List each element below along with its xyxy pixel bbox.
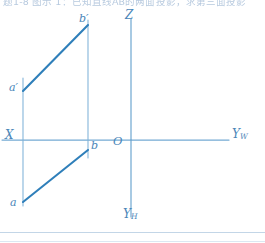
- origin-label-text: O: [113, 134, 122, 148]
- point-label-a: a: [10, 197, 17, 208]
- origin-label: O: [113, 136, 122, 148]
- line-ab-projections: [23, 25, 88, 202]
- axis-label-z-text: Z: [125, 8, 133, 22]
- point-label-b-text: b: [91, 139, 98, 152]
- point-label-b: b: [91, 140, 98, 151]
- axis-label-yw-subscript: W: [240, 132, 248, 141]
- projector-lines: [23, 20, 88, 206]
- point-label-a-prime: a′: [9, 82, 18, 93]
- page-rule-primary: [0, 232, 265, 233]
- point-label-b-prime-mark: ′: [86, 12, 89, 25]
- projection-figure: [0, 0, 265, 243]
- page-rule-secondary: [0, 241, 265, 242]
- drawing-canvas: X Z YW YH O a′ b′ a b: [0, 0, 265, 243]
- axis-label-yh-text: Y: [123, 207, 131, 221]
- projection-drawing-screenshot: 题1-8 图示 1：已知直线AB的两面投影，求第三面投影: [0, 0, 265, 243]
- point-label-b-prime-text: b: [79, 12, 86, 25]
- axis-label-yw-text: Y: [232, 127, 240, 141]
- segment-frontal-projection-ab: [23, 25, 88, 91]
- axis-label-yh-subscript: H: [131, 212, 138, 221]
- axis-label-x: X: [5, 129, 14, 141]
- point-label-a-text: a: [10, 196, 17, 209]
- axis-label-yw: YW: [232, 128, 248, 141]
- axis-label-x-text: X: [5, 128, 14, 142]
- axis-label-z: Z: [125, 9, 133, 21]
- point-label-a-prime-mark: ′: [16, 81, 19, 94]
- axis-label-yh: YH: [123, 208, 137, 221]
- segment-horizontal-projection-ab: [23, 150, 88, 202]
- point-label-b-prime: b′: [79, 13, 89, 24]
- axis-lines: [2, 19, 229, 217]
